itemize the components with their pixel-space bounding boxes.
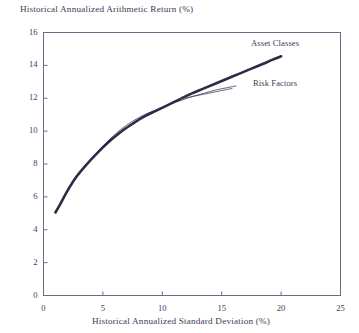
x-tick-label: 15 xyxy=(210,303,234,313)
series-line-risk-factors xyxy=(55,86,236,213)
y-tick-label: 16 xyxy=(14,27,38,37)
y-tick-label: 2 xyxy=(14,257,38,267)
risk-factors-leader-line xyxy=(180,88,232,99)
series-label-asset-classes: Asset Classes xyxy=(251,38,299,48)
series-line-asset-classes xyxy=(55,56,281,212)
plot-area xyxy=(0,0,359,333)
chart-figure: Historical Annualized Arithmetic Return … xyxy=(0,0,359,333)
x-tick-label: 20 xyxy=(269,303,293,313)
y-tick-label: 10 xyxy=(14,125,38,135)
y-tick-label: 12 xyxy=(14,92,38,102)
x-tick-label: 0 xyxy=(32,303,56,313)
series-label-risk-factors: Risk Factors xyxy=(253,78,297,88)
y-tick-label: 8 xyxy=(14,158,38,168)
y-tick-label: 6 xyxy=(14,191,38,201)
data-series xyxy=(55,56,281,212)
x-tick-label: 5 xyxy=(91,303,115,313)
x-axis-title: Historical Annualized Standard Deviation… xyxy=(92,316,270,326)
y-tick-label: 0 xyxy=(14,290,38,300)
y-tick-label: 4 xyxy=(14,224,38,234)
x-tick-label: 25 xyxy=(329,303,353,313)
y-tick-label: 14 xyxy=(14,59,38,69)
x-tick-label: 10 xyxy=(150,303,174,313)
risk-factors-leader xyxy=(180,88,232,99)
